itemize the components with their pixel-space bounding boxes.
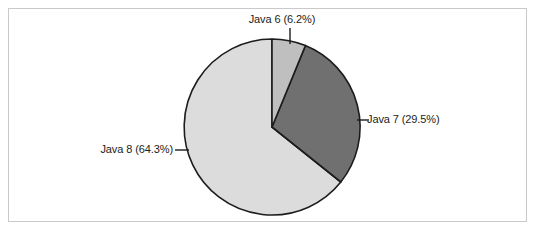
pie-chart-plot-area: Java 6 (6.2%) Java 7 (29.5%) Java 8 (64.… [0,0,539,235]
java-8-slice-label: Java 8 (64.3%) [38,143,173,156]
pie-chart-svg [0,0,539,235]
java-6-slice-label: Java 6 (6.2%) [222,13,342,26]
pie-chart-figure: Java 6 (6.2%) Java 7 (29.5%) Java 8 (64.… [0,0,539,235]
java-7-slice-label: Java 7 (29.5%) [367,113,440,126]
